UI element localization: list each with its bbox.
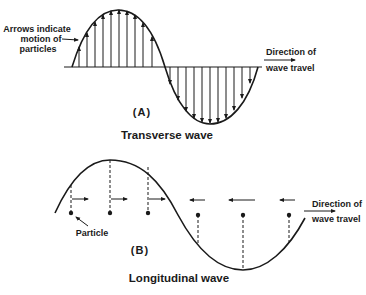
particle-pointer-arrow — [76, 217, 88, 226]
particle-label: Particle — [76, 228, 109, 238]
particle-dot — [241, 213, 245, 217]
particle-dot — [196, 213, 200, 217]
direction-label-a-line1: Direction of — [266, 47, 317, 57]
particles — [69, 211, 291, 217]
transverse-wave-panel: Arrows indicate motion of particles Dire… — [3, 10, 317, 141]
caption-transverse-wave: Transverse wave — [121, 129, 213, 141]
direction-label-a-line2: wave travel — [265, 63, 315, 73]
longitudinal-wave-curve — [55, 160, 305, 270]
panel-label-a: (A) — [133, 106, 151, 118]
direction-label-b-line2: wave travel — [311, 214, 361, 224]
particle-dot — [146, 211, 150, 215]
particle-dot — [287, 213, 291, 217]
longitudinal-wave-panel: Particle Direction of wave travel (B) Lo… — [55, 160, 363, 284]
panel-label-b: (B) — [131, 244, 149, 256]
direction-label-b-line1: Direction of — [312, 199, 363, 209]
annotation-particles: particles — [19, 44, 56, 54]
particle-dashed-lines — [71, 160, 289, 270]
annotation-pointer-arrow — [62, 39, 78, 40]
wave-diagram: Arrows indicate motion of particles Dire… — [0, 0, 366, 295]
particle-motion-arrows-up — [79, 10, 152, 67]
particle-dot — [69, 211, 73, 215]
annotation-motion-of: motion of — [21, 34, 63, 44]
particle-dot — [108, 211, 112, 215]
annotation-arrows-indicate: Arrows indicate — [3, 24, 71, 34]
particle-motion-arrows-down — [170, 67, 250, 123]
caption-longitudinal-wave: Longitudinal wave — [129, 272, 229, 284]
